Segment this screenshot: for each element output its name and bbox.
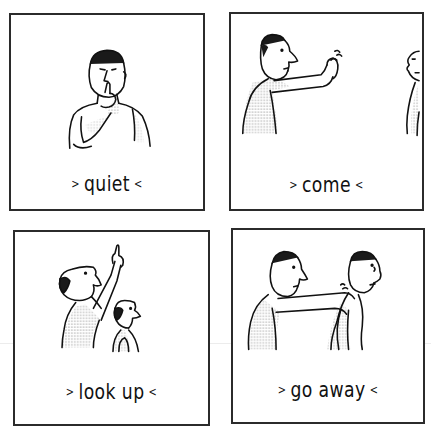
caption-text: come xyxy=(302,173,351,197)
right-chevron-mark: < xyxy=(355,178,364,192)
caption-quiet: >quiet< xyxy=(28,174,185,195)
caption-go-away: >go away< xyxy=(250,380,406,401)
right-chevron-mark: < xyxy=(134,177,143,191)
caption-text: look up xyxy=(78,380,144,404)
left-chevron-mark: > xyxy=(71,177,80,191)
right-chevron-mark: < xyxy=(149,385,158,399)
panel-come: >come< xyxy=(229,12,424,211)
caption-text: go away xyxy=(290,378,365,402)
right-chevron-mark: < xyxy=(370,383,379,397)
panel-go-away: >go away< xyxy=(231,228,425,424)
caption-text: quiet xyxy=(84,172,130,196)
panel-quiet: >quiet< xyxy=(9,13,205,211)
left-chevron-mark: > xyxy=(289,178,298,192)
panel-look-up: >look up< xyxy=(13,230,210,426)
caption-come: >come< xyxy=(248,175,405,196)
left-chevron-mark: > xyxy=(278,383,287,397)
left-chevron-mark: > xyxy=(66,385,75,399)
caption-look-up: >look up< xyxy=(32,382,190,403)
